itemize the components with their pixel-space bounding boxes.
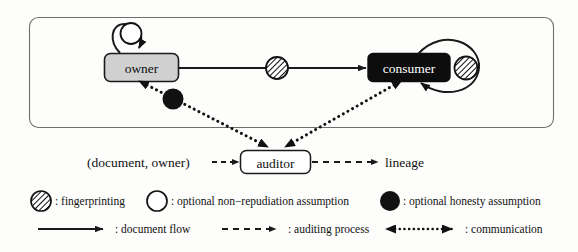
legend-auditing-process-label: : auditing process <box>288 223 370 236</box>
legend-document-flow-label: : document flow <box>115 223 191 235</box>
filled-circle-icon <box>380 191 400 211</box>
hatched-circle-icon-flow <box>266 57 288 79</box>
diagram-svg: owner consumer (document, owner) auditor… <box>0 0 578 252</box>
hatched-circle-icon <box>31 191 51 211</box>
node-consumer-label: consumer <box>383 61 436 76</box>
legend-honesty-label: : optional honesty assumption <box>403 195 541 208</box>
edge-consumer-to-auditor-communication <box>285 85 394 147</box>
open-circle-icon-owner-loop <box>121 23 142 44</box>
node-owner-label: owner <box>125 61 159 76</box>
filled-circle-icon-honesty <box>163 89 184 110</box>
input-tuple-label: (document, owner) <box>87 155 190 170</box>
diagram-canvas: owner consumer (document, owner) auditor… <box>0 0 578 252</box>
node-auditor-label: auditor <box>256 156 295 171</box>
open-circle-icon <box>147 191 167 211</box>
legend-fingerprinting-label: : fingerprinting <box>55 195 125 208</box>
legend-nonrepudiation-label: : optional non−repudiation assumption <box>171 195 349 208</box>
legend-communication-label: : communication <box>465 223 543 235</box>
hatched-circle-icon-consumer-loop <box>455 57 478 80</box>
output-lineage-label: lineage <box>385 155 424 170</box>
